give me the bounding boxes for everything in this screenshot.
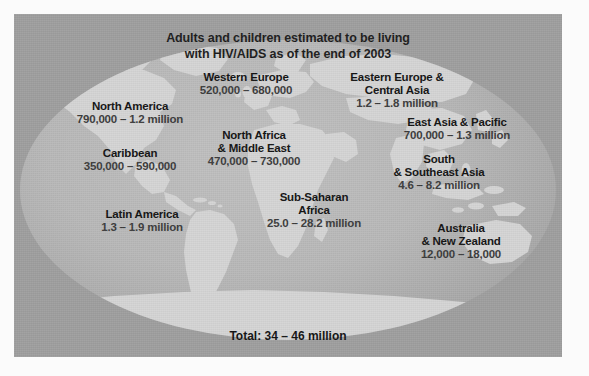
region-label-australia-new-zealand: Australia & New Zealand 12,000 – 18,000 — [366, 222, 556, 261]
region-value-north-africa: 470,000 – 730,000 — [154, 155, 354, 168]
region-name-eastern-europe-line-1: Eastern Europe & — [302, 71, 492, 84]
region-name-north-africa-line-2: & Middle East — [154, 142, 354, 155]
world-map-panel: Adults and children estimated to be livi… — [14, 14, 562, 357]
chart-title-line-2: with HIV/AIDS as of the end of 2003 — [185, 47, 391, 61]
region-name-latin-america: Latin America — [42, 208, 242, 221]
region-name-sub-saharan-line-2: Africa — [224, 204, 404, 217]
image-frame: Adults and children estimated to be livi… — [0, 0, 589, 376]
region-name-north-africa-line-1: North Africa — [154, 129, 354, 142]
region-label-eastern-europe-central-asia: Eastern Europe & Central Asia 1.2 – 1.8 … — [302, 71, 492, 110]
region-label-north-america: North America 790,000 – 1.2 million — [14, 100, 246, 126]
region-name-eastern-europe-line-2: Central Asia — [302, 84, 492, 97]
region-value-east-asia-pacific: 700,000 – 1.3 million — [352, 129, 562, 142]
region-name-south-asia-line-2: & Southeast Asia — [344, 166, 534, 179]
chart-title: Adults and children estimated to be livi… — [14, 30, 562, 62]
region-label-south-southeast-asia: South & Southeast Asia 4.6 – 8.2 million — [344, 153, 534, 192]
region-label-north-africa-middle-east: North Africa & Middle East 470,000 – 730… — [154, 129, 354, 168]
region-name-south-asia-line-1: South — [344, 153, 534, 166]
region-name-east-asia-pacific: East Asia & Pacific — [352, 116, 562, 129]
chart-title-line-1: Adults and children estimated to be livi… — [166, 31, 410, 45]
region-name-australia-line-2: & New Zealand — [366, 235, 556, 248]
region-value-australia: 12,000 – 18,000 — [366, 248, 556, 261]
region-value-latin-america: 1.3 – 1.9 million — [42, 221, 242, 234]
region-label-east-asia-pacific: East Asia & Pacific 700,000 – 1.3 millio… — [352, 116, 562, 142]
region-name-australia-line-1: Australia — [366, 222, 556, 235]
region-value-north-america: 790,000 – 1.2 million — [14, 113, 246, 126]
region-name-sub-saharan-line-1: Sub-Saharan — [224, 191, 404, 204]
region-name-north-america: North America — [14, 100, 246, 113]
region-value-eastern-europe: 1.2 – 1.8 million — [302, 97, 492, 110]
region-label-latin-america: Latin America 1.3 – 1.9 million — [42, 208, 242, 234]
total-label: Total: 34 – 46 million — [14, 329, 562, 343]
